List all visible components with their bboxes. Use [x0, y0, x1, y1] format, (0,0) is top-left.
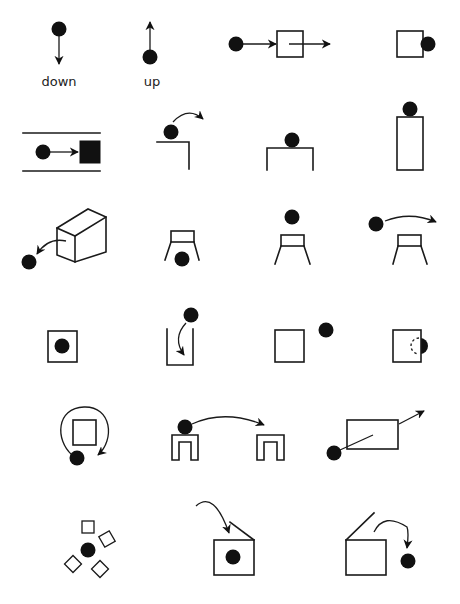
ball-icon [285, 210, 300, 225]
panel-out-of-lidded-box [346, 513, 416, 575]
panel-blocked [23, 133, 100, 171]
table-left-icon [172, 435, 198, 460]
stool-legs-icon [275, 246, 310, 264]
panel-over-edge [157, 113, 203, 169]
square-icon [65, 556, 82, 573]
arrow-curved-icon [173, 113, 203, 122]
ball-icon [421, 37, 436, 52]
box-icon [73, 420, 96, 445]
ball-icon [285, 133, 300, 148]
square-icon [92, 561, 109, 578]
ball-icon [369, 217, 384, 232]
panel-inside-box [48, 331, 77, 362]
panel-down: down [41, 22, 76, 90]
diagram-canvas: down up [0, 0, 460, 604]
box-icon [275, 330, 304, 362]
ball-icon [401, 554, 416, 569]
panel-contact-side [397, 31, 436, 57]
panel-on-top-table [267, 133, 313, 171]
ball-icon [52, 22, 67, 37]
ball-icon [226, 550, 241, 565]
panel-around-box [61, 407, 109, 466]
ledge-icon [157, 142, 189, 169]
stool-seat-icon [171, 231, 194, 242]
ball-icon [70, 451, 85, 466]
ball-icon [184, 308, 199, 323]
panel-pierce [327, 411, 425, 461]
square-icon [82, 521, 94, 533]
panel-into-lidded-box [196, 502, 254, 575]
panel-into-container [167, 308, 199, 366]
arrow-curved-icon [37, 240, 66, 254]
ball-icon [319, 323, 334, 338]
rectangle-icon [347, 420, 398, 449]
lid-icon [230, 522, 254, 540]
arrow-diagonal-icon [399, 411, 424, 424]
square-icon [99, 531, 115, 547]
tall-box-icon [397, 117, 423, 170]
diagram-svg: down up [0, 0, 460, 604]
ball-icon [175, 252, 190, 267]
panel-on-top-tall [397, 102, 423, 171]
stool-legs-icon [393, 246, 427, 264]
cube-edge-icon [57, 217, 106, 236]
panel-surrounded [65, 521, 116, 577]
ball-icon [55, 339, 70, 354]
label-up: up [144, 74, 161, 89]
arrow-curved-icon [196, 502, 229, 533]
panel-under-stool [165, 231, 199, 267]
ball-icon [327, 446, 342, 461]
box-icon [393, 330, 421, 362]
table-icon [267, 148, 313, 170]
panel-above-stool [275, 210, 310, 265]
ball-icon [81, 543, 96, 558]
label-down: down [41, 74, 76, 89]
arrow-circular-icon [61, 407, 109, 455]
panel-near-box [275, 323, 334, 363]
box-icon [346, 540, 386, 575]
ball-icon [164, 125, 179, 140]
stool-seat-icon [398, 235, 421, 246]
panel-pass-over-stool [369, 216, 437, 264]
ball-icon [36, 145, 51, 160]
stool-seat-icon [281, 235, 304, 246]
arrow-curved-icon [192, 417, 264, 425]
table-right-icon [257, 435, 284, 460]
solid-block-icon [80, 141, 100, 163]
ball-icon [178, 420, 193, 435]
panel-up: up [143, 22, 161, 89]
panel-through [229, 31, 331, 57]
panel-move-between-tables [172, 417, 284, 460]
box-icon [397, 31, 423, 57]
ball-icon [143, 50, 158, 65]
panel-out-of-box [22, 209, 107, 270]
arrow-curved-icon [374, 521, 408, 548]
ball-icon [22, 255, 37, 270]
ball-icon [403, 102, 418, 117]
arrow-curved-icon [385, 216, 436, 222]
arrow-curved-icon [178, 323, 186, 355]
panel-behind-box [393, 330, 428, 362]
pierce-line [340, 435, 373, 450]
ball-icon [229, 37, 244, 52]
lid-icon [346, 513, 374, 540]
cube-outline-icon [57, 209, 106, 262]
